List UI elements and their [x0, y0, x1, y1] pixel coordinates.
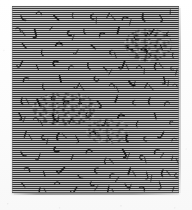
stroke-mark: [26, 98, 29, 104]
stroke-mark: [171, 156, 173, 161]
stroke-mark: [60, 76, 62, 82]
stroke-mark: [55, 42, 62, 45]
stroke-mark: [109, 138, 113, 143]
stroke-mark: [164, 101, 170, 105]
stroke-mark: [67, 31, 72, 37]
stroke-marks-svg: [12, 6, 179, 193]
stroke-mark: [128, 168, 131, 174]
stroke-mark: [52, 60, 58, 66]
stroke-mark: [42, 84, 46, 90]
stroke-mark: [149, 85, 153, 90]
stroke-mark: [145, 157, 147, 163]
stroke-mark: [49, 26, 53, 30]
stroke-mark: [144, 83, 148, 88]
stroke-mark: [81, 85, 84, 90]
stroke-mark: [73, 48, 78, 54]
stroke-mark: [121, 16, 127, 20]
image-canvas: [0, 0, 192, 210]
plate-bottom-shadow: [14, 193, 179, 195]
stroke-mark: [72, 34, 75, 39]
stroke-mark: [150, 175, 152, 181]
stroke-mark: [158, 131, 164, 139]
stroke-mark: [175, 69, 178, 75]
stroke-marks-group: [16, 10, 179, 193]
stroke-mark: [172, 187, 174, 191]
stroke-mark: [21, 15, 26, 21]
texture-plate: [12, 6, 179, 193]
stroke-mark: [41, 135, 45, 140]
stroke-mark: [46, 138, 48, 144]
stroke-mark: [148, 51, 152, 56]
stroke-mark: [109, 83, 115, 87]
stroke-mark: [155, 113, 157, 119]
stroke-mark: [24, 131, 27, 137]
stroke-mark: [144, 172, 148, 179]
stroke-mark: [109, 158, 113, 163]
stroke-mark: [160, 153, 164, 158]
stroke-mark: [132, 100, 135, 105]
stroke-mark: [143, 68, 145, 74]
stroke-mark: [167, 170, 171, 175]
stroke-mark: [91, 45, 95, 50]
stroke-mark: [24, 167, 30, 172]
stroke-mark: [171, 137, 176, 141]
stroke-mark: [117, 27, 120, 33]
stroke-mark: [125, 183, 130, 189]
stroke-mark: [40, 50, 44, 56]
stroke-mark: [127, 154, 130, 159]
stroke-mark: [87, 63, 91, 69]
stroke-mark: [20, 98, 25, 104]
stroke-mark: [53, 147, 59, 153]
stroke-mark: [22, 77, 28, 82]
stroke-mark: [58, 115, 59, 121]
stroke-mark: [74, 82, 79, 89]
stroke-mark: [103, 158, 108, 164]
stroke-mark: [119, 60, 125, 69]
stroke-mark: [129, 19, 132, 25]
stroke-mark: [117, 114, 124, 119]
stroke-mark: [140, 185, 146, 190]
stroke-mark: [50, 95, 55, 100]
stroke-mark: [68, 65, 74, 69]
stroke-mark: [126, 64, 129, 70]
stroke-mark: [170, 10, 171, 15]
stroke-mark: [157, 182, 161, 189]
stroke-mark: [62, 100, 68, 105]
stroke-mark: [102, 119, 106, 126]
stroke-mark: [68, 119, 71, 124]
stroke-mark: [90, 131, 96, 134]
stroke-mark: [147, 98, 153, 104]
stroke-mark: [167, 80, 169, 86]
stroke-mark: [153, 63, 159, 69]
stroke-mark: [171, 53, 175, 58]
stroke-mark: [55, 133, 62, 140]
stroke-mark: [62, 133, 66, 138]
stroke-mark: [109, 50, 113, 55]
stroke-mark: [136, 66, 142, 69]
stroke-mark: [153, 148, 159, 153]
stroke-mark: [79, 98, 83, 104]
stroke-mark: [111, 15, 115, 20]
stroke-mark: [54, 182, 60, 185]
stroke-mark: [96, 17, 97, 23]
stroke-mark: [71, 186, 77, 193]
stroke-mark: [89, 182, 94, 187]
stroke-mark: [94, 186, 98, 191]
stroke-mark: [141, 14, 146, 21]
stroke-mark: [71, 155, 74, 160]
stroke-mark: [109, 173, 114, 178]
stroke-mark: [125, 135, 131, 142]
stroke-mark: [23, 117, 26, 122]
stroke-mark: [166, 32, 170, 37]
plate-stroke-marks-layer: [12, 6, 179, 193]
stroke-mark: [161, 77, 165, 85]
stroke-mark: [32, 29, 37, 38]
stroke-mark: [83, 29, 87, 34]
stroke-mark: [53, 115, 57, 121]
stroke-mark: [37, 99, 39, 105]
stroke-mark: [143, 137, 146, 142]
stroke-mark: [160, 44, 162, 49]
stroke-mark: [43, 171, 45, 176]
stroke-mark: [94, 168, 98, 173]
stroke-mark: [36, 153, 40, 160]
